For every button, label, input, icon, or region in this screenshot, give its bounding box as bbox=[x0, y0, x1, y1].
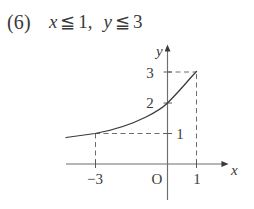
inequality-x-variable: x bbox=[49, 11, 57, 32]
inequality-x-value: 1 bbox=[78, 11, 88, 32]
tick-marks bbox=[96, 72, 197, 168]
y-axis-label: y bbox=[154, 43, 163, 59]
inequality-y-relation: ≦ bbox=[115, 12, 130, 32]
figure-panel: (6) x≦1,y≦3 bbox=[0, 0, 254, 209]
problem-number: (6) bbox=[7, 11, 31, 34]
inequality-x-relation: ≦ bbox=[60, 12, 75, 32]
coordinate-plot: y x 3 2 1 −3 1 O bbox=[0, 38, 254, 209]
inequality-expression: x≦1,y≦3 bbox=[49, 11, 143, 33]
y-tick-label-2: 2 bbox=[146, 95, 154, 111]
x-axis-label: x bbox=[230, 162, 238, 178]
origin-label: O bbox=[152, 171, 163, 187]
problem-statement: (6) x≦1,y≦3 bbox=[0, 6, 254, 38]
y-tick-label-1: 1 bbox=[176, 126, 184, 142]
inequality-y-variable: y bbox=[104, 11, 112, 32]
y-tick-label-3: 3 bbox=[146, 65, 154, 81]
inequality-y-value: 3 bbox=[133, 11, 143, 32]
x-tick-label-1: 1 bbox=[193, 171, 201, 187]
plot-svg: y x 3 2 1 −3 1 O bbox=[0, 38, 254, 209]
inequality-separator: , bbox=[88, 11, 93, 32]
x-tick-label-neg3: −3 bbox=[87, 171, 103, 187]
